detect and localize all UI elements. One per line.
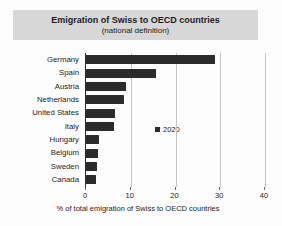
bar-italy <box>86 122 114 131</box>
category-label-hungary: Hungary <box>0 133 79 146</box>
gridline-20 <box>176 53 177 187</box>
bar-hungary <box>86 135 99 144</box>
category-label-germany: Germany <box>0 53 79 66</box>
x-tickmark-40 <box>264 187 265 190</box>
x-tick-label-20: 20 <box>170 191 178 200</box>
category-label-canada: Canada <box>0 173 79 186</box>
category-label-belgium: Belgium <box>0 146 79 159</box>
chart-title-band: Emigration of Swiss to OECD countries (n… <box>13 10 258 40</box>
chart-subtitle: (national definition) <box>102 26 170 35</box>
bar-austria <box>86 82 126 91</box>
x-tick-label-10: 10 <box>126 191 134 200</box>
bar-united-states <box>86 109 115 118</box>
x-tickmark-0 <box>85 187 86 190</box>
category-label-austria: Austria <box>0 80 79 93</box>
bar-netherlands <box>86 95 124 104</box>
gridline-40 <box>265 53 266 187</box>
category-label-united-states: United States <box>0 106 79 119</box>
legend-label: 2020 <box>163 125 180 134</box>
bar-canada <box>86 175 96 184</box>
bar-germany <box>86 55 215 64</box>
category-labels: GermanySpainAustriaNetherlandsUnited Sta… <box>0 53 82 187</box>
bar-sweden <box>86 162 97 171</box>
bar-belgium <box>86 149 98 158</box>
chart-screenshot: Emigration of Swiss to OECD countries (n… <box>0 0 282 226</box>
category-label-italy: Italy <box>0 120 79 133</box>
legend-square-marker-icon <box>155 127 160 132</box>
x-tickmark-10 <box>130 187 131 190</box>
category-label-spain: Spain <box>0 66 79 79</box>
gridline-30 <box>220 53 221 187</box>
x-tickmark-30 <box>219 187 220 190</box>
category-label-netherlands: Netherlands <box>0 93 79 106</box>
bar-spain <box>86 69 156 78</box>
x-tick-label-30: 30 <box>215 191 223 200</box>
chart-title: Emigration of Swiss to OECD countries <box>51 15 220 25</box>
category-label-sweden: Sweden <box>0 160 79 173</box>
x-axis: 010203040 <box>85 187 264 203</box>
x-axis-label: % of total emigration of Swiss to OECD c… <box>0 204 276 213</box>
x-tickmark-20 <box>175 187 176 190</box>
plot-area: 2020 <box>85 53 265 187</box>
x-tick-label-40: 40 <box>260 191 268 200</box>
x-tick-label-0: 0 <box>83 191 87 200</box>
